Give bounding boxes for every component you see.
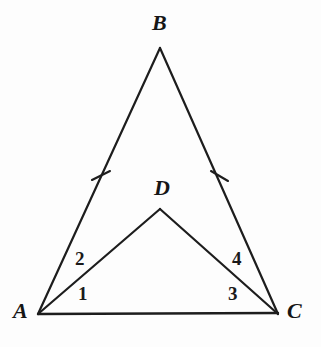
angle-label-4: 4 (232, 249, 242, 268)
segment-ab (38, 48, 160, 314)
angle-label-2: 2 (75, 249, 85, 268)
vertex-label-b: B (152, 12, 167, 34)
angle-label-3: 3 (228, 284, 238, 303)
segment-ad (38, 209, 160, 314)
segment-ac (38, 313, 278, 314)
figure-svg (0, 0, 321, 347)
geometry-diagram: A B C D 1 2 3 4 (0, 0, 321, 347)
vertex-label-d: D (154, 177, 170, 199)
vertex-label-a: A (13, 300, 28, 322)
segment-dc (160, 209, 278, 314)
segment-bc (160, 48, 278, 314)
vertex-label-c: C (287, 300, 302, 322)
angle-label-1: 1 (78, 284, 88, 303)
